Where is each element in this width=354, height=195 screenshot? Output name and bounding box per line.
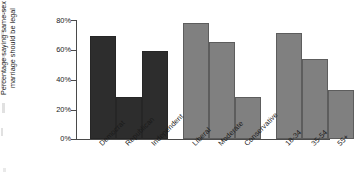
bar-liberal (183, 23, 209, 139)
y-tick-20: 20% (40, 106, 71, 114)
bar-moderate (209, 42, 235, 139)
y-tick-label-20: 20% (45, 106, 71, 114)
bar-35-54 (302, 59, 328, 139)
y-tick-label-60: 60% (45, 46, 71, 54)
y-tick-label-40: 40% (45, 76, 71, 84)
y-tick-60: 60% (40, 46, 71, 54)
plot-area (77, 20, 330, 139)
bar-55 (328, 90, 354, 139)
y-tick-0: 0% (40, 135, 71, 143)
bar-18-34 (276, 33, 302, 139)
y-tick-label-80: 80% (45, 17, 71, 25)
y-tick-label-0: 0% (45, 135, 71, 143)
bar-democrat (90, 36, 116, 139)
y-axis-title: Percentage saying same-sex marriage shou… (0, 0, 29, 109)
y-tick-80: 80% (40, 17, 71, 25)
y-tick-40: 40% (40, 76, 71, 84)
